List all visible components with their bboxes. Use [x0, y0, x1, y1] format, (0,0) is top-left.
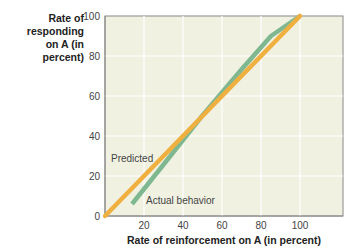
- svg-text:100: 100: [292, 220, 309, 231]
- svg-text:40: 40: [89, 131, 101, 142]
- y-ticks: 100 80 60 40 20 0: [83, 11, 100, 222]
- svg-text:80: 80: [89, 51, 101, 62]
- svg-text:40: 40: [177, 220, 189, 231]
- x-axis-label: Rate of reinforcement on A (in percent): [104, 234, 344, 246]
- actual-behavior-annotation: Actual behavior: [146, 195, 216, 206]
- svg-text:0: 0: [94, 211, 100, 222]
- svg-text:80: 80: [255, 220, 267, 231]
- svg-text:20: 20: [89, 171, 101, 182]
- svg-text:100: 100: [83, 11, 100, 22]
- svg-text:20: 20: [138, 220, 150, 231]
- chart: 100 80 60 40 20 0 20 40 60 80 100 Predic…: [0, 0, 362, 252]
- plot-area: [105, 16, 343, 216]
- predicted-annotation: Predicted: [111, 153, 153, 164]
- svg-text:60: 60: [89, 91, 101, 102]
- x-ticks: 20 40 60 80 100: [138, 220, 308, 231]
- svg-text:60: 60: [216, 220, 228, 231]
